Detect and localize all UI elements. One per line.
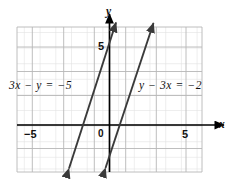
coordinate-plane-figure: 3x − y = −5 y − 3x = −2 x y −5 5 0 5: [0, 0, 233, 185]
graph-canvas: [0, 0, 233, 185]
y-tick-label-pos5: 5: [98, 40, 104, 52]
equation-label-left: 3x − y = −5: [9, 79, 72, 91]
equation-label-right: y − 3x = −2: [139, 79, 202, 91]
y-axis-label: y: [106, 5, 111, 17]
x-tick-label-pos5: 5: [182, 128, 188, 140]
origin-label: 0: [98, 128, 104, 139]
x-axis-label: x: [219, 118, 225, 130]
x-tick-label-neg5: −5: [24, 128, 37, 140]
